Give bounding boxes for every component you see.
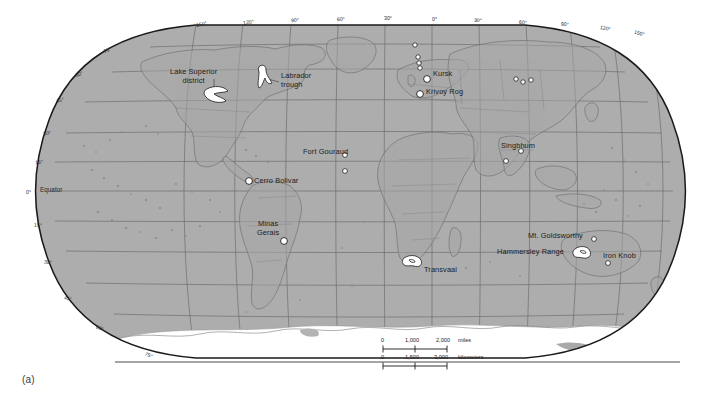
deposit-marker-unlabeled-scandinavia-4: [418, 66, 422, 70]
longitude-label-90w: 90°: [291, 17, 299, 24]
scalebar-miles-unit: miles: [458, 337, 471, 343]
deposit-marker-unlabeled-siberia-2: [521, 80, 525, 84]
latitude-label-30s: 30°: [44, 258, 53, 265]
latitude-label-0: 0°: [26, 189, 31, 195]
figure-caption: (a): [22, 374, 35, 385]
deposit-label-hammersley-range: Hammersley Range: [497, 248, 564, 256]
latitude-label-equator: Equator: [40, 186, 62, 193]
deposit-marker-cerro-bolivar: [246, 178, 253, 185]
deposit-label-minas-gerais: Minas Gerais: [257, 220, 279, 237]
deposit-marker-unlabeled-siberia-1: [514, 77, 518, 81]
deposit-marker-unlabeled-scandinavia-3: [417, 61, 421, 65]
deposit-label-line-2: district: [170, 77, 217, 86]
longitude-label-60w: 60°: [337, 16, 345, 22]
scalebar-miles-tick-2000: 2,000: [436, 337, 450, 343]
scalebar-km-unit: kilometers: [458, 354, 484, 360]
world-map-figure: 150° 120° 90° 60° 30° 0° 30° 60° 90° 120…: [0, 0, 721, 401]
deposit-label-lake-superior-district: Lake Superior district: [170, 68, 217, 85]
deposit-marker-iron-knob: [606, 261, 611, 266]
longitude-label-90e: 90°: [561, 20, 570, 27]
map-graphic: [0, 0, 721, 401]
deposit-marker-krivoy-rog: [417, 91, 424, 98]
longitude-label-0: 0°: [432, 16, 437, 22]
longitude-label-30w: 30°: [384, 15, 392, 21]
deposit-marker-mt-goldsworthy: [592, 237, 597, 242]
deposit-marker-kursk: [424, 76, 431, 83]
scalebar-km-tick-3000: 3,000: [434, 354, 448, 360]
scalebar-miles-tick-1000: 1,000: [405, 337, 419, 343]
deposit-label-singbhum: Singbhum: [501, 142, 535, 150]
latitude-label-30n: 30°: [43, 130, 52, 137]
deposit-label-fort-gouraud: Fort Gouraud: [303, 148, 348, 156]
deposit-label-krivoy-rog: Krivoy Rog: [426, 88, 463, 96]
deposit-label-labrador-trough: Labrador trough: [281, 72, 311, 89]
deposit-label-iron-knob: Iron Knob: [603, 252, 636, 260]
deposit-area-hammersley-range: [573, 247, 591, 259]
deposit-label-kursk: Kursk: [433, 70, 452, 78]
deposit-marker-unlabeled-scandinavia-2: [416, 55, 420, 59]
longitude-label-60e: 60°: [519, 19, 527, 26]
scalebar-miles-tick-0: 0: [381, 337, 384, 343]
deposit-marker-unlabeled-india-south: [504, 159, 509, 164]
deposit-label-line-2: Gerais: [257, 229, 279, 238]
scalebar-km-tick-1500: 1,500: [405, 354, 419, 360]
scalebar-km-tick-0: 0: [381, 354, 384, 360]
longitude-label-30e: 30°: [474, 17, 482, 23]
deposit-area-transvaal: [403, 256, 422, 267]
deposit-label-mt-goldsworthy: Mt. Goldsworthy: [528, 232, 583, 240]
deposit-label-transvaal: Transvaal: [424, 266, 457, 274]
deposit-label-line-2: trough: [281, 81, 311, 90]
deposit-label-cerro-bolivar: Cerro Bolivar: [254, 177, 298, 185]
deposit-marker-minas-gerais: [281, 238, 288, 245]
deposit-marker-unlabeled-scandinavia-1: [413, 43, 417, 47]
antarctica: [115, 325, 680, 362]
latitude-label-15n: 15°: [35, 159, 43, 166]
deposit-marker-unlabeled-siberia-3: [529, 78, 533, 82]
latitude-label-15s: 15°: [34, 222, 42, 229]
deposit-marker-unlabeled-west-africa: [343, 169, 348, 174]
